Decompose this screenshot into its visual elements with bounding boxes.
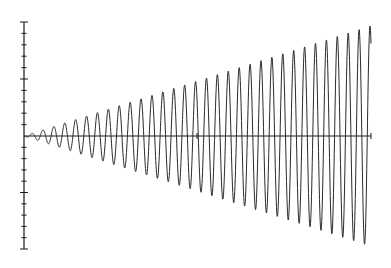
oscillation-chart (0, 0, 391, 268)
x-axis (24, 133, 371, 139)
